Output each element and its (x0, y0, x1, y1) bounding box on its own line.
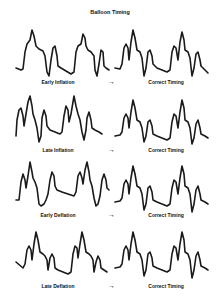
row-2-left-label: Late Inflation (30, 147, 86, 153)
arrow-icon: → (108, 79, 115, 85)
row-3-left-label: Early Deflation (30, 212, 86, 218)
waveform-correct-timing-1 (113, 22, 208, 78)
arrow-icon: → (108, 283, 115, 289)
waveform-early-inflation (14, 22, 109, 78)
arrow-icon: → (108, 147, 115, 153)
waveform-correct-timing-4 (113, 224, 208, 280)
waveform-correct-timing-3 (113, 158, 208, 214)
arrow-icon: → (108, 212, 115, 218)
waveform-late-inflation (14, 92, 109, 148)
row-1-right-label: Correct Timing (136, 79, 196, 85)
row-1-left-label: Early Inflation (30, 79, 86, 85)
row-2-right-label: Correct Timing (136, 147, 196, 153)
waveform-late-deflation (14, 224, 109, 280)
row-4-left-label: Late Deflation (30, 283, 86, 289)
top-edge-artifact (12, 0, 42, 3)
diagram-title: Balloon Timing (0, 9, 220, 15)
row-4-right-label: Correct Timing (136, 283, 196, 289)
row-3-right-label: Correct Timing (136, 212, 196, 218)
waveform-correct-timing-2 (113, 92, 208, 148)
waveform-early-deflation (14, 158, 109, 214)
